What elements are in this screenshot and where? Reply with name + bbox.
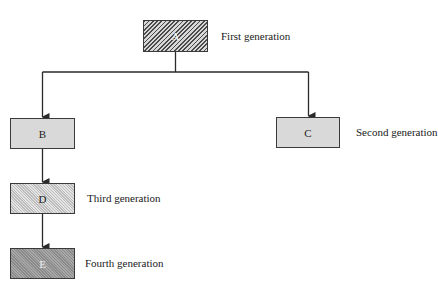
third-generation-label: Third generation	[87, 192, 161, 204]
fourth-generation-label: Fourth generation	[85, 257, 164, 269]
node-b-label: B	[39, 128, 46, 140]
node-a-label: A	[172, 30, 180, 42]
node-c: C	[276, 117, 340, 148]
node-b: B	[10, 118, 75, 149]
node-e: E	[10, 248, 75, 279]
first-generation-label: First generation	[221, 30, 290, 42]
node-e-label: E	[39, 258, 46, 270]
node-c-label: C	[304, 127, 311, 139]
node-a: A	[143, 20, 208, 52]
second-generation-label: Second generation	[356, 126, 438, 138]
node-d-label: D	[39, 193, 47, 205]
node-d: D	[10, 183, 75, 214]
